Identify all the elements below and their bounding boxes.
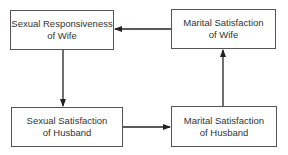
node-marital-satisfaction-husband: Marital Satisfaction of Husband: [171, 106, 277, 147]
node-sexual-responsiveness-wife: Sexual Responsiveness of Wife: [10, 10, 114, 50]
node-label-line1: Marital Satisfaction: [183, 17, 263, 29]
node-sexual-satisfaction-husband: Sexual Satisfaction of Husband: [11, 107, 123, 147]
node-label-line2: of Wife: [47, 30, 77, 42]
node-label-line2: of Wife: [209, 29, 239, 41]
node-marital-satisfaction-wife: Marital Satisfaction of Wife: [171, 9, 276, 49]
node-label-line1: Sexual Responsiveness: [11, 18, 112, 30]
node-label-line2: of Husband: [200, 127, 249, 139]
node-label-line1: Marital Satisfaction: [184, 115, 264, 127]
node-label-line1: Sexual Satisfaction: [27, 115, 108, 127]
node-label-line2: of Husband: [43, 127, 92, 139]
